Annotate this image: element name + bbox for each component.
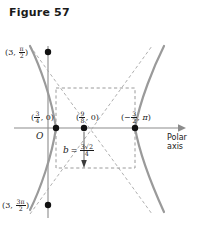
b-equals: = [71,146,78,155]
origin-label: O [36,131,43,141]
polar-axis-arrowhead [178,124,186,132]
label-point-vertex-top: (3, π2) [5,46,28,60]
label-point-vertex-left: (34, 0) [31,111,54,125]
point-vertex-top [45,49,51,55]
polar-axis-label-line1: Polar [167,133,187,142]
label-vertex-bottom-theta-fraction: 3π2 [16,199,26,213]
label-vertex-right-r-fraction: 32 [131,111,137,125]
hyperbola-right-branch [135,46,164,212]
label-center-r-fraction: 98 [79,111,85,125]
point-vertex-right [132,125,138,131]
b-value-fraction: 3√24 [80,144,94,158]
point-vertex-left [53,125,59,131]
figure-container: Figure 57 (3, π2) (3, 3π2) (34, [0,0,198,239]
label-point-center: (98, 0) [76,111,99,125]
point-vertex-bottom [45,202,51,208]
polar-hyperbola-plot [0,0,198,239]
point-center [81,125,87,131]
polar-axis-label-line2: axis [167,142,187,151]
label-point-vertex-bottom: (3, 3π2) [2,199,29,213]
b-variable: b [63,145,69,155]
polar-axis-label: Polar axis [167,133,187,151]
label-point-vertex-right: (−32, π) [121,111,151,125]
b-annotation: b=3√24 [63,144,94,158]
b-measure-arrowhead [81,160,87,168]
label-vertex-left-r-fraction: 34 [34,111,40,125]
label-vertex-top-theta-fraction: π2 [19,46,25,60]
